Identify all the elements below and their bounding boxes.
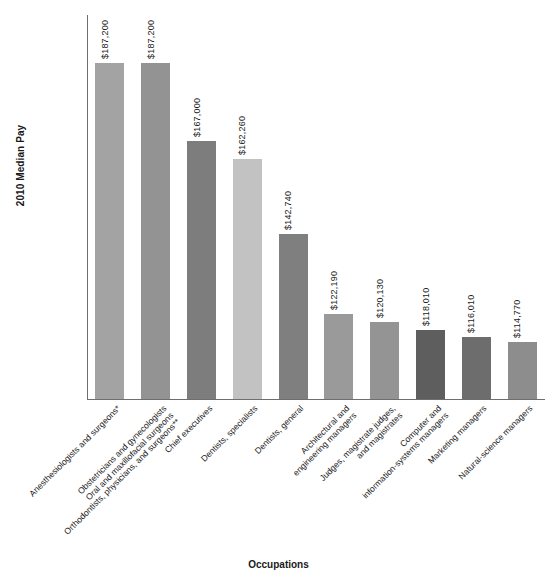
bar: $120,130 xyxy=(370,322,399,400)
x-axis-tick-label-line: Orthodontists, physicians, and surgeons*… xyxy=(62,418,182,538)
x-axis-line xyxy=(87,399,545,400)
bar: $187,200 xyxy=(141,63,170,399)
bar-value-label: $167,000 xyxy=(192,98,202,137)
bar: $114,770 xyxy=(508,342,537,399)
bar: $142,740 xyxy=(279,234,308,399)
bar-value-label: $118,010 xyxy=(421,287,431,325)
bar-value-label: $120,130 xyxy=(375,278,385,317)
bar-value-label: $162,260 xyxy=(237,116,247,155)
bar-value-label: $142,740 xyxy=(283,191,293,230)
x-axis-title: Occupations xyxy=(0,559,557,570)
bar: $167,000 xyxy=(187,141,216,399)
bar-value-label: $122,190 xyxy=(329,270,339,309)
y-axis-line xyxy=(87,15,88,400)
bar-value-label: $114,770 xyxy=(512,300,522,338)
bar: $116,010 xyxy=(462,337,491,399)
bar: $187,200 xyxy=(95,63,124,399)
x-axis-tick-label-line: Oral and maxillofacial surgeons xyxy=(56,411,176,531)
plot-area: $200,000$190,000$180,000$170,000$160,000… xyxy=(87,15,545,400)
bar: $122,190 xyxy=(324,314,353,399)
bar-chart: 2010 Median Pay $200,000$190,000$180,000… xyxy=(0,0,557,584)
bar-value-label: $187,200 xyxy=(146,20,156,59)
x-axis-tick-label: Obstetricians and gynecologistsOral and … xyxy=(49,404,182,537)
y-axis-title: 2010 Median Pay xyxy=(15,101,26,231)
bar-value-label: $187,200 xyxy=(100,20,110,59)
bar: $162,260 xyxy=(233,159,262,399)
bar: $118,010 xyxy=(416,330,445,399)
bar-value-label: $116,010 xyxy=(466,295,476,333)
